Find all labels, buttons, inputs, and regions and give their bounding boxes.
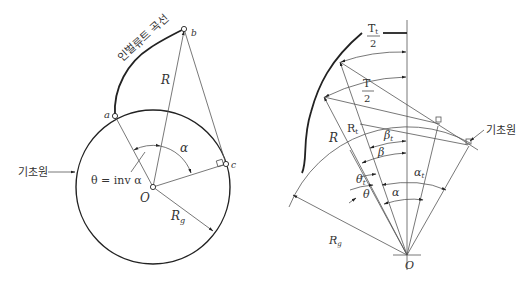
base-circle-arc bbox=[289, 127, 470, 207]
label-alpha: α bbox=[392, 186, 400, 199]
label-b: b bbox=[191, 28, 197, 38]
radius-theta bbox=[350, 150, 407, 255]
right-angle-mark-1 bbox=[436, 117, 441, 122]
label-alpha: α bbox=[180, 141, 188, 155]
label-R: R bbox=[328, 131, 338, 145]
label-theta-inv: θ = inv α bbox=[91, 174, 142, 187]
involute-curve-label: 인벌류트 곡선 bbox=[115, 12, 171, 64]
point-O bbox=[150, 184, 155, 189]
line-O-c bbox=[153, 164, 226, 187]
label-alpha-t: αt bbox=[414, 166, 424, 180]
radius-Rg bbox=[293, 195, 407, 255]
label-theta-t: θt bbox=[356, 173, 366, 187]
label-T-half: T bbox=[363, 77, 371, 90]
label-O: O bbox=[405, 259, 414, 272]
theta-leader bbox=[131, 152, 145, 172]
label-Rg: Rg bbox=[170, 209, 185, 225]
theta-tick bbox=[349, 198, 356, 203]
label-Rt: Rt bbox=[347, 122, 358, 136]
line-b-c bbox=[184, 29, 226, 164]
label-beta: β bbox=[377, 146, 384, 159]
point-a bbox=[112, 113, 117, 118]
base-circle-pointer bbox=[470, 130, 484, 141]
right-diagram: Tt 2 T 2 Rt R βt β θt θ αt α Rg O 기초원 bbox=[289, 20, 516, 272]
involute-diagram: 인벌류트 곡선 기초원 a b c O R α θ = inv α Rg bbox=[0, 0, 527, 282]
radius-to-tangent2 bbox=[407, 146, 469, 255]
base-circle-label: 기초원 bbox=[486, 124, 516, 137]
involute-curve bbox=[115, 29, 184, 116]
label-T-den: 2 bbox=[364, 93, 370, 104]
label-O: O bbox=[140, 191, 150, 205]
label-theta: θ bbox=[363, 188, 370, 201]
label-Tt-half: Tt bbox=[368, 22, 378, 36]
left-diagram: 인벌류트 곡선 기초원 a b c O R α θ = inv α Rg bbox=[18, 12, 236, 264]
label-Tt-den: 2 bbox=[370, 38, 376, 49]
arc-Tt bbox=[341, 52, 406, 62]
point-b bbox=[181, 26, 186, 31]
tangent-line-R bbox=[324, 97, 440, 124]
theta-arc bbox=[134, 145, 160, 150]
label-a: a bbox=[104, 109, 110, 120]
point-c bbox=[223, 161, 228, 166]
label-R: R bbox=[160, 73, 170, 87]
label-Rg: Rg bbox=[328, 234, 342, 248]
radius-to-tangent1 bbox=[407, 126, 438, 255]
base-circle-label: 기초원 bbox=[18, 166, 48, 179]
arc-alpha bbox=[384, 199, 423, 204]
arc-beta-t bbox=[370, 141, 406, 148]
label-c: c bbox=[231, 160, 236, 170]
label-beta-t: βt bbox=[383, 129, 393, 143]
line-O-b bbox=[153, 31, 184, 187]
tangent-line-Rt bbox=[340, 62, 478, 150]
